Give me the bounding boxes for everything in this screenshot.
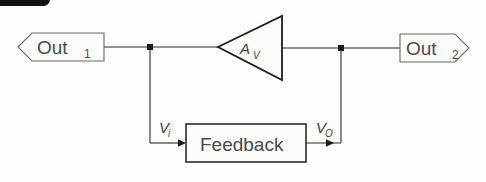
vo-subscript: O <box>325 128 333 139</box>
right-junction-dot <box>338 45 344 51</box>
diagram-canvas: Out 1 Out 2 A V Feedback V i V O <box>0 0 486 182</box>
arrowhead-vi <box>178 139 186 147</box>
amplifier-label: A <box>239 40 250 57</box>
feedback-label: Feedback <box>200 134 284 155</box>
left-junction-dot <box>147 44 153 50</box>
vi-subscript: i <box>168 128 171 139</box>
circuit-diagram-svg: Out 1 Out 2 A V Feedback V i V O <box>0 0 486 182</box>
out2-label: Out <box>406 38 437 59</box>
out1-label: Out <box>37 37 68 58</box>
out1-subscript: 1 <box>84 47 91 61</box>
out2-subscript: 2 <box>452 48 459 62</box>
arrowhead-vo <box>326 139 334 147</box>
